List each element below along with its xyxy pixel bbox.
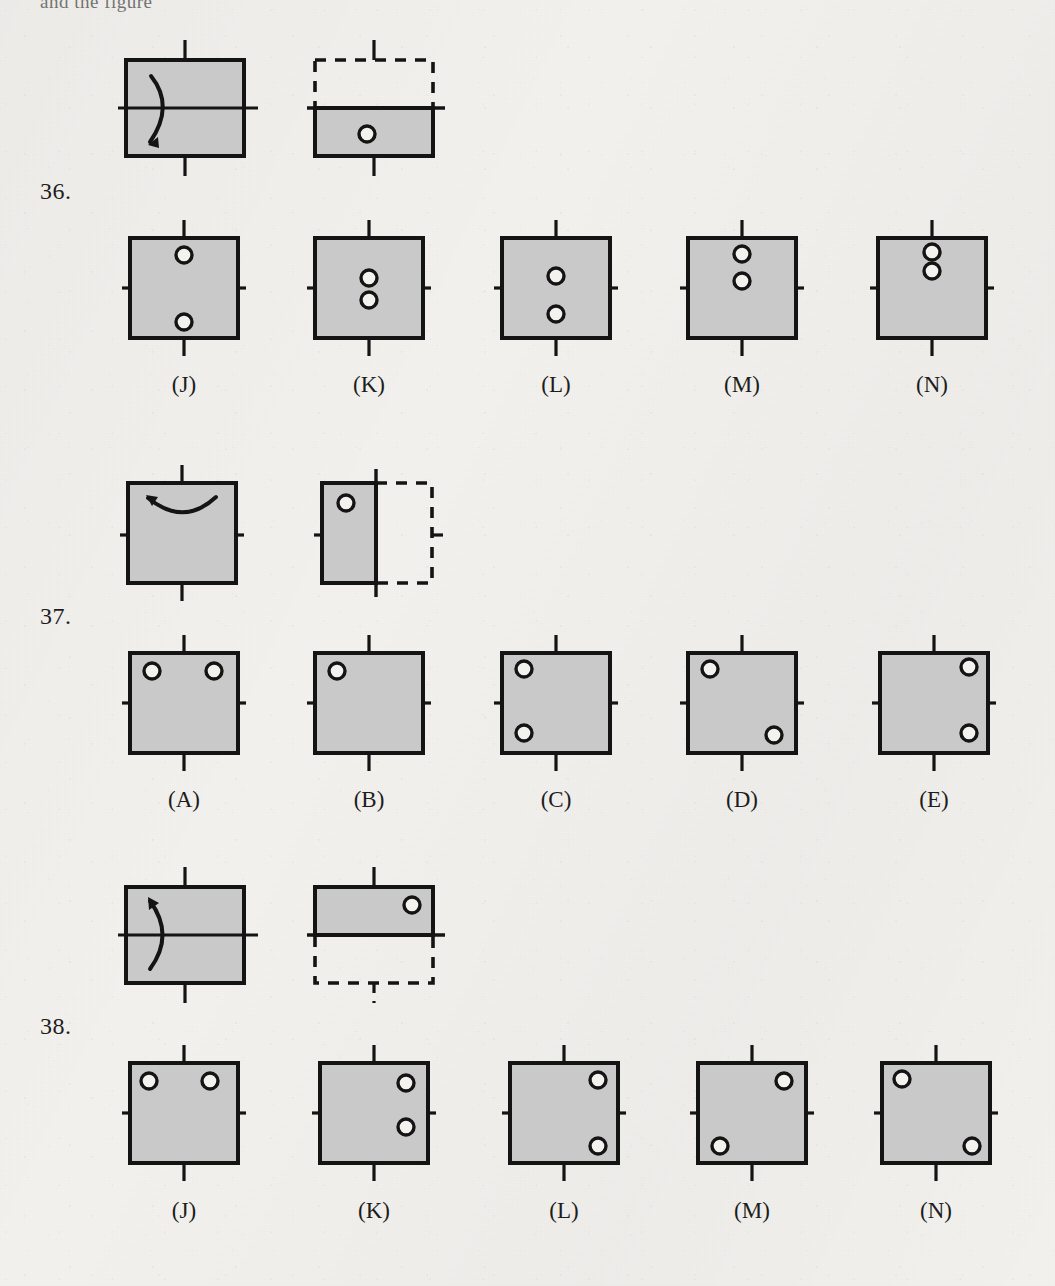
problem-36-option-K[interactable] — [305, 218, 445, 358]
problem-38-label-N: (N) — [896, 1198, 976, 1224]
problem-37-prompt-result — [312, 465, 472, 605]
problem-36-option-L[interactable] — [492, 218, 632, 358]
problem-38-label-L: (L) — [524, 1198, 604, 1224]
problem-36-prompt-result — [305, 38, 465, 178]
problem-38-prompt-start — [118, 865, 268, 1005]
problem-38-label-J: (J) — [144, 1198, 224, 1224]
problem-37-option-D[interactable] — [678, 633, 818, 773]
problem-38-label-M: (M) — [712, 1198, 792, 1224]
problem-37-option-C[interactable] — [492, 633, 632, 773]
problem-37-label-D: (D) — [702, 787, 782, 813]
problem-37-label-A: (A) — [144, 787, 224, 813]
problem-36-label-N: (N) — [892, 372, 972, 398]
problem-37-prompt-start — [118, 465, 268, 605]
problem-36-label-J: (J) — [144, 372, 224, 398]
problem-36-label-L: (L) — [516, 372, 596, 398]
problem-38-option-N[interactable] — [872, 1043, 1012, 1183]
problem-36-prompt-start — [118, 38, 268, 178]
problem-36-option-N[interactable] — [868, 218, 1008, 358]
cut-off-header-text: and the figure — [40, 0, 153, 13]
problem-38-option-L[interactable] — [500, 1043, 640, 1183]
problem-38-label-K: (K) — [334, 1198, 414, 1224]
problem-37-option-E[interactable] — [870, 633, 1010, 773]
problem-37-label-C: (C) — [516, 787, 596, 813]
problem-36-label-M: (M) — [702, 372, 782, 398]
problem-36-option-M[interactable] — [678, 218, 818, 358]
problem-37-label-B: (B) — [329, 787, 409, 813]
problem-38-option-J[interactable] — [120, 1043, 260, 1183]
problem-38-prompt-result — [305, 865, 465, 1005]
problem-37-label-E: (E) — [894, 787, 974, 813]
problem-38-option-M[interactable] — [688, 1043, 828, 1183]
problem-36-label-K: (K) — [329, 372, 409, 398]
problem-36-option-J[interactable] — [120, 218, 260, 358]
problem-37-option-B[interactable] — [305, 633, 445, 773]
question-number-38: 38. — [40, 1013, 72, 1040]
problem-37-option-A[interactable] — [120, 633, 260, 773]
question-number-37: 37. — [40, 603, 72, 630]
question-number-36: 36. — [40, 178, 72, 205]
scanned-page: and the figure 36. — [0, 0, 1055, 1286]
problem-38-option-K[interactable] — [310, 1043, 450, 1183]
